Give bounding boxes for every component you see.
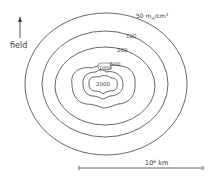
contour-label-200: 200 [117, 47, 128, 53]
scale-bar [79, 166, 203, 170]
scale-label: 106 km [145, 159, 168, 168]
contour-label-2000: 2000 [96, 81, 110, 87]
contour-label-1000: 1000 [99, 65, 112, 71]
contour-label-100: 100 [126, 33, 137, 39]
field-label: field [10, 41, 27, 50]
field-arrow-icon [18, 16, 22, 38]
contour-diagram: field 50 mH/cm3 100 200 500 1000 2000 10… [0, 0, 212, 177]
